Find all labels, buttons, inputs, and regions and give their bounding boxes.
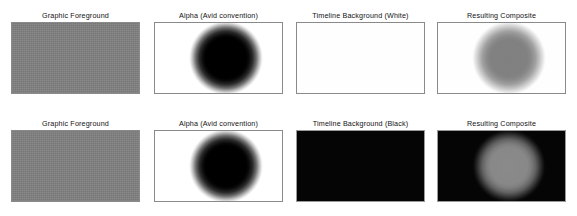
panel-caption: Alpha (Avid convention) xyxy=(147,11,290,20)
panel-alpha-white-row: Alpha (Avid convention) xyxy=(147,0,290,108)
panel-caption: Timeline Background (Black) xyxy=(289,119,432,128)
panel-frame xyxy=(437,22,566,94)
panel-caption: Alpha (Avid convention) xyxy=(147,119,290,128)
panel-frame xyxy=(296,22,425,94)
panel-caption: Graphic Foreground xyxy=(4,11,147,20)
panel-timeline-background-black: Timeline Background (Black) xyxy=(289,108,432,216)
panel-resulting-composite-black-row: Resulting Composite xyxy=(430,108,573,216)
panel-alpha-black-row: Alpha (Avid convention) xyxy=(147,108,290,216)
panel-frame xyxy=(154,130,283,202)
panel-frame xyxy=(296,130,425,202)
figure-row-black-background: Graphic Foreground Alpha (Avid conventio… xyxy=(0,108,577,216)
composite-blob-shape xyxy=(472,22,546,94)
panel-frame xyxy=(11,22,140,94)
alpha-blob-shape xyxy=(189,130,263,202)
panel-resulting-composite-white-row: Resulting Composite xyxy=(430,0,573,108)
timeline-background-fill xyxy=(297,131,424,201)
timeline-background-fill xyxy=(297,23,424,93)
panel-frame xyxy=(154,22,283,94)
panel-graphic-foreground-white-row: Graphic Foreground xyxy=(4,0,147,108)
panel-frame xyxy=(11,130,140,202)
panel-caption: Resulting Composite xyxy=(430,119,573,128)
alpha-matte-surface xyxy=(155,131,282,201)
compositing-figure: Graphic Foreground Alpha (Avid conventio… xyxy=(0,0,577,216)
composite-blob-shape xyxy=(472,130,546,202)
composite-surface xyxy=(438,23,565,93)
composite-surface xyxy=(438,131,565,201)
panel-frame xyxy=(437,130,566,202)
panel-graphic-foreground-black-row: Graphic Foreground xyxy=(4,108,147,216)
alpha-blob-shape xyxy=(189,22,263,94)
panel-caption: Graphic Foreground xyxy=(4,119,147,128)
graphic-foreground-fill xyxy=(12,131,139,201)
panel-timeline-background-white: Timeline Background (White) xyxy=(289,0,432,108)
alpha-matte-surface xyxy=(155,23,282,93)
panel-caption: Timeline Background (White) xyxy=(289,11,432,20)
figure-row-white-background: Graphic Foreground Alpha (Avid conventio… xyxy=(0,0,577,108)
graphic-foreground-fill xyxy=(12,23,139,93)
panel-caption: Resulting Composite xyxy=(430,11,573,20)
